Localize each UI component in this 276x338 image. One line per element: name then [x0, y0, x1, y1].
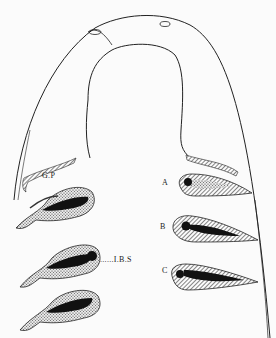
appendage-b [173, 216, 258, 242]
inner-outline [86, 44, 190, 158]
gp-plate-right [186, 155, 238, 176]
outline-drawing [0, 0, 276, 338]
appendage-c [172, 264, 258, 290]
label-ibs: ......I.B.S [100, 255, 132, 264]
left-appendage-2 [20, 245, 100, 287]
appendage-a [179, 174, 252, 196]
label-c: C [162, 266, 168, 275]
label-a: A [162, 178, 168, 187]
left-appendage-1 [16, 187, 94, 228]
label-b: B [160, 222, 166, 231]
diagram-figure: G.P ......I.B.S A B C [0, 0, 276, 338]
label-gp: G.P [42, 171, 55, 180]
left-appendage-3 [20, 290, 100, 330]
